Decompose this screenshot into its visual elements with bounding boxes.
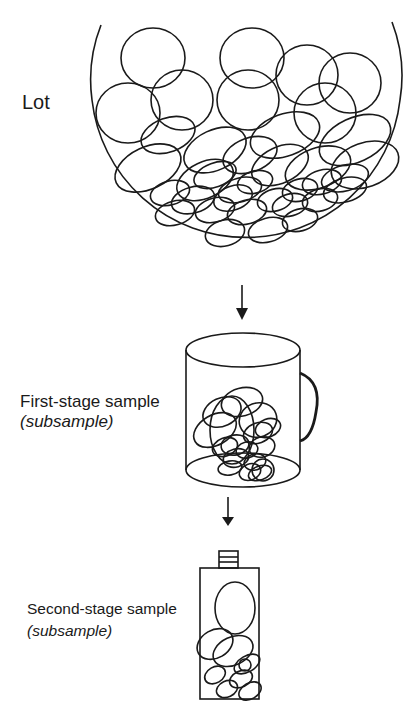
mug-handle bbox=[300, 373, 317, 441]
arrow-down-icon bbox=[236, 308, 248, 320]
sampling-diagram bbox=[0, 0, 420, 726]
particle bbox=[121, 28, 185, 88]
particle bbox=[270, 190, 310, 221]
bottle-cap bbox=[219, 551, 238, 568]
particle bbox=[192, 622, 239, 665]
particle bbox=[188, 406, 243, 455]
arrow-down-icon bbox=[222, 517, 234, 526]
lot-particles bbox=[96, 28, 405, 251]
particle bbox=[276, 45, 338, 105]
particle bbox=[214, 677, 241, 701]
bottle-particles bbox=[192, 582, 265, 704]
particle bbox=[236, 678, 265, 704]
particle bbox=[107, 134, 188, 202]
particle bbox=[215, 582, 255, 634]
particle bbox=[148, 176, 193, 210]
particle bbox=[177, 118, 254, 182]
particle bbox=[220, 28, 284, 88]
particle bbox=[151, 70, 213, 130]
particle bbox=[244, 103, 326, 167]
mug-particles bbox=[188, 383, 284, 484]
particle bbox=[311, 104, 398, 176]
mug-rim bbox=[186, 333, 300, 367]
particle bbox=[136, 109, 200, 160]
particle bbox=[245, 136, 315, 194]
particle bbox=[217, 70, 279, 130]
particle bbox=[96, 83, 160, 143]
particle bbox=[218, 129, 282, 180]
